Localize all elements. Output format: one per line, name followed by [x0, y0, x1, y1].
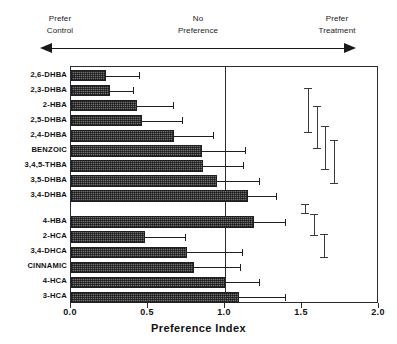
error-bar-cap	[240, 264, 241, 271]
right-arrow-icon	[344, 43, 356, 53]
error-bar-cap	[185, 234, 186, 241]
error-bar	[142, 121, 182, 122]
bar-2-6-dhba	[71, 70, 106, 82]
category-label-2-5-dhba: 2,5-DHBA	[30, 115, 67, 124]
category-label-3-hca: 3-HCA	[43, 291, 67, 300]
y-axis-tick	[71, 136, 75, 137]
category-label-2-4-dhba: 2,4-DHBA	[30, 130, 67, 139]
error-bar-cap	[213, 132, 214, 139]
category-label-3-4-5-thba: 3,4,5-THBA	[24, 160, 67, 169]
error-bar-cap	[243, 162, 244, 169]
error-bar	[248, 196, 276, 197]
error-bar	[137, 106, 172, 107]
ci-marker-6-cap-high	[310, 214, 318, 215]
ci-marker-3-cap-high	[321, 126, 329, 127]
double-arrow-line	[52, 48, 344, 49]
bar-3-4-dhca	[71, 247, 187, 259]
error-bar	[106, 76, 138, 77]
x-axis-title: Preference Index	[0, 322, 397, 334]
error-bar-cap	[182, 117, 183, 124]
ci-marker-5-cap-low	[301, 213, 309, 214]
category-axis-labels: 2,6-DHBA2,3-DHBA2-HBA2,5-DHBA2,4-DHBABEN…	[0, 66, 67, 303]
bar-2-3-dhba	[71, 85, 110, 97]
ci-marker-5	[305, 204, 306, 212]
error-bar-cap	[173, 102, 174, 109]
x-axis-tick-label: 0.5	[127, 307, 167, 317]
error-bar-cap	[259, 178, 260, 185]
ci-marker-4-cap-low	[330, 183, 338, 184]
bar-2-5-dhba	[71, 115, 142, 127]
error-bar-cap	[133, 87, 134, 94]
bar-cinnamic	[71, 262, 194, 274]
error-bar	[225, 282, 259, 283]
x-axis-tick-label: 1.5	[281, 307, 321, 317]
no-preference-label-line2: Preference	[158, 26, 238, 36]
ci-marker-5-cap-high	[301, 204, 309, 205]
category-label-4-hba: 4-HBA	[43, 216, 67, 225]
bar-3-hca	[71, 292, 239, 304]
ci-marker-4-cap-high	[330, 140, 338, 141]
category-label-4-hca: 4-HCA	[43, 276, 67, 285]
y-axis-tick	[71, 151, 75, 152]
ci-marker-2-cap-high	[313, 106, 321, 107]
ci-marker-3	[325, 126, 326, 169]
ci-marker-6-cap-low	[310, 235, 318, 236]
ci-marker-7-cap-low	[320, 257, 328, 258]
y-axis-tick	[71, 91, 75, 92]
bar-2-hba	[71, 100, 137, 112]
bar-3-5-dhba	[71, 175, 217, 187]
bar-4-hca	[71, 277, 225, 289]
category-label-2-6-dhba: 2,6-DHBA	[30, 70, 67, 79]
x-axis-tick-label: 2.0	[358, 307, 397, 317]
ci-marker-7	[324, 234, 325, 257]
ci-marker-2-cap-low	[313, 148, 321, 149]
y-axis-tick	[71, 121, 75, 122]
category-label-2-3-dhba: 2,3-DHBA	[30, 85, 67, 94]
error-bar-cap	[285, 294, 286, 301]
y-axis-tick	[71, 237, 75, 238]
y-axis-tick	[71, 106, 75, 107]
bar-4-hba	[71, 216, 254, 228]
error-bar	[239, 297, 285, 298]
error-bar-cap	[242, 249, 243, 256]
category-label-3-5-dhba: 3,5-DHBA	[30, 175, 67, 184]
y-axis-tick	[71, 166, 75, 167]
prefer-treatment-label-line2: Treatment	[297, 26, 377, 36]
chart-figure: Prefer Control No Preference Prefer Trea…	[0, 0, 397, 344]
error-bar-cap	[285, 219, 286, 226]
error-bar-cap	[139, 72, 140, 79]
x-axis-tick-label: 1.0	[204, 307, 244, 317]
category-label-3-4-dhca: 3,4-DHCA	[30, 246, 67, 255]
y-axis-tick	[71, 76, 75, 77]
y-axis-tick	[71, 196, 75, 197]
prefer-control-label-line1: Prefer	[20, 14, 100, 24]
ci-marker-1-cap-high	[304, 88, 312, 89]
error-bar	[254, 222, 285, 223]
ci-marker-3-cap-low	[321, 169, 329, 170]
y-axis-tick	[71, 267, 75, 268]
prefer-control-label-line2: Control	[20, 26, 100, 36]
error-bar	[217, 181, 259, 182]
bar-benzoic	[71, 145, 202, 157]
error-bar-cap	[259, 279, 260, 286]
category-label-cinnamic: CINNAMIC	[27, 261, 67, 270]
plot-area	[70, 66, 378, 303]
category-label-2-hba: 2-HBA	[43, 100, 67, 109]
error-bar	[174, 136, 213, 137]
ci-marker-7-cap-high	[320, 234, 328, 235]
ci-marker-1-cap-low	[304, 132, 312, 133]
left-arrow-icon	[40, 43, 52, 53]
error-bar-cap	[245, 147, 246, 154]
ci-marker-4	[334, 140, 335, 183]
error-bar	[202, 151, 245, 152]
error-bar	[203, 166, 243, 167]
ci-marker-1	[308, 88, 309, 132]
bar-2-hca	[71, 231, 145, 243]
error-bar	[194, 267, 240, 268]
error-bar	[187, 252, 242, 253]
ci-marker-6	[314, 214, 315, 235]
x-axis-tick-label: 0.0	[50, 307, 90, 317]
y-axis-tick	[71, 282, 75, 283]
prefer-treatment-label-line1: Prefer	[297, 14, 377, 24]
error-bar	[145, 237, 185, 238]
